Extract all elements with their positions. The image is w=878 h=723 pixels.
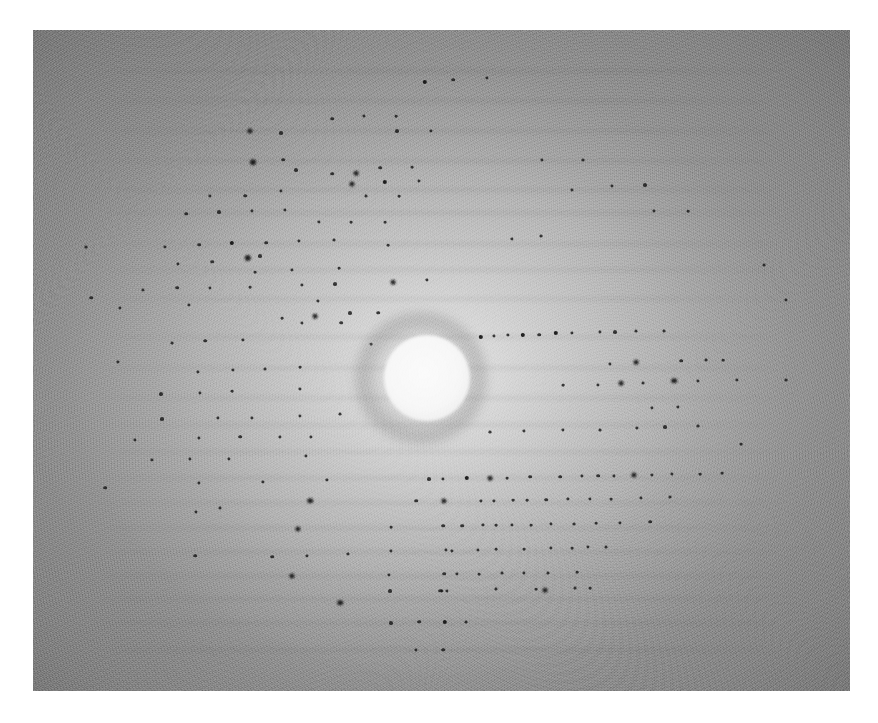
diffraction-photograph bbox=[33, 30, 850, 691]
film-grain-texture-2 bbox=[33, 30, 850, 691]
screenshot-root bbox=[0, 0, 878, 723]
